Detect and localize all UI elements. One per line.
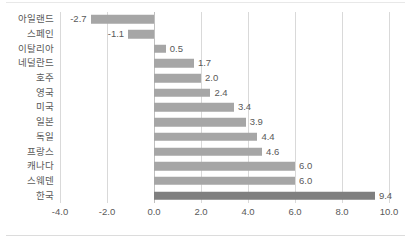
x-axis-tick-label: -4.0 (52, 207, 68, 217)
bar-row: 미국3.4 (60, 100, 389, 115)
bar-row: 독일4.4 (60, 130, 389, 145)
bar-value-label: 2.4 (214, 88, 227, 98)
x-axis-tick-label: 6.0 (288, 207, 301, 217)
bar-value-label: 6.0 (299, 176, 312, 186)
category-label: 스웨덴 (27, 176, 54, 186)
category-label: 미국 (36, 103, 54, 113)
bar-row: 일본3.9 (60, 115, 389, 130)
bar-value-label: -2.7 (70, 15, 86, 25)
bar-value-label: 0.5 (170, 44, 183, 54)
bar-row: 영국2.4 (60, 85, 389, 100)
category-label: 영국 (36, 88, 54, 98)
bar-row: 캐나다6.0 (60, 159, 389, 174)
bar (154, 44, 166, 53)
bar (154, 89, 210, 98)
bar (154, 133, 257, 142)
bar-value-label: 4.4 (261, 132, 274, 142)
top-divider (6, 2, 405, 3)
x-axis-tick-label: 2.0 (194, 207, 207, 217)
bottom-divider (6, 235, 405, 236)
bar-value-label: 6.0 (299, 162, 312, 172)
bar-row: 한국9.4 (60, 188, 389, 203)
bar-value-label: 1.7 (198, 59, 211, 69)
x-axis-tick-label: 4.0 (241, 207, 254, 217)
bar (154, 191, 375, 200)
bar (154, 118, 246, 127)
x-axis-tick-label: 0.0 (147, 207, 160, 217)
category-label: 캐나다 (27, 162, 54, 172)
bar-value-label: 3.4 (238, 103, 251, 113)
x-axis-tick-label: -2.0 (99, 207, 115, 217)
x-axis: -4.0-2.00.02.04.06.08.010.0 (60, 207, 389, 223)
bar-row: 프랑스4.6 (60, 144, 389, 159)
bar-row: 네덜란드1.7 (60, 56, 389, 71)
bar-row: 아일랜드-2.7 (60, 12, 389, 27)
bar (154, 59, 194, 68)
plot-area: 아일랜드-2.7스페인-1.1이탈리아0.5네덜란드1.7호주2.0영국2.4미… (60, 12, 389, 203)
bar-chart-figure: 아일랜드-2.7스페인-1.1이탈리아0.5네덜란드1.7호주2.0영국2.4미… (0, 0, 411, 241)
category-label: 스페인 (27, 29, 54, 39)
bar (154, 147, 262, 156)
bar-row: 호주2.0 (60, 71, 389, 86)
bar-rows: 아일랜드-2.7스페인-1.1이탈리아0.5네덜란드1.7호주2.0영국2.4미… (60, 12, 389, 203)
bar-value-label: 3.9 (250, 117, 263, 127)
category-label: 아일랜드 (18, 15, 54, 25)
category-label: 독일 (36, 132, 54, 142)
bar-value-label: -1.1 (108, 29, 124, 39)
bar-row: 스페인-1.1 (60, 27, 389, 42)
bar-value-label: 4.6 (266, 147, 279, 157)
x-axis-tick-label: 8.0 (335, 207, 348, 217)
bar-row: 이탈리아0.5 (60, 41, 389, 56)
category-label: 프랑스 (27, 147, 54, 157)
gridline-10.0 (389, 12, 390, 203)
bar (154, 103, 234, 112)
bar (154, 74, 201, 83)
bar-value-label: 9.4 (379, 191, 392, 201)
category-label: 일본 (36, 117, 54, 127)
bar (154, 177, 295, 186)
category-label: 네덜란드 (18, 59, 54, 69)
x-axis-tick-label: 10.0 (380, 207, 399, 217)
bar-value-label: 2.0 (205, 73, 218, 83)
bar (91, 15, 154, 24)
bar (128, 30, 154, 39)
category-label: 이탈리아 (18, 44, 54, 54)
bar (154, 162, 295, 171)
category-label: 한국 (36, 191, 54, 201)
bar-row: 스웨덴6.0 (60, 174, 389, 189)
category-label: 호주 (36, 73, 54, 83)
